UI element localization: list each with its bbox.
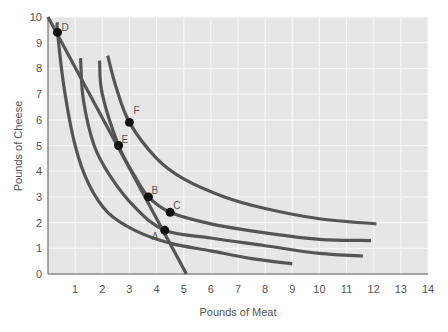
- x-tick-label: 2: [99, 283, 105, 295]
- point-label-a: A: [152, 231, 159, 242]
- y-axis-ticks: 012345678910: [30, 11, 42, 280]
- y-tick-label: 10: [30, 11, 42, 23]
- point-f: [125, 118, 134, 127]
- y-tick-label: 1: [36, 242, 42, 254]
- y-tick-label: 6: [36, 114, 42, 126]
- x-axis-ticks: 1234567891011121314: [72, 283, 434, 295]
- x-tick-label: 1: [72, 283, 78, 295]
- y-tick-label: 2: [36, 217, 42, 229]
- y-tick-label: 7: [36, 88, 42, 100]
- point-label-f: F: [133, 105, 139, 116]
- point-a: [160, 226, 169, 235]
- x-tick-label: 5: [181, 283, 187, 295]
- x-tick-label: 9: [289, 283, 295, 295]
- y-tick-label: 8: [36, 62, 42, 74]
- indifference-curve-chart: 1234567891011121314 012345678910 ABCDEF …: [0, 0, 448, 332]
- x-tick-label: 10: [313, 283, 325, 295]
- y-tick-label: 0: [36, 268, 42, 280]
- x-tick-label: 12: [368, 283, 380, 295]
- point-label-e: E: [122, 134, 129, 145]
- point-label-b: B: [151, 185, 158, 196]
- y-tick-label: 5: [36, 140, 42, 152]
- x-tick-label: 8: [262, 283, 268, 295]
- x-tick-label: 14: [422, 283, 434, 295]
- point-label-c: C: [173, 200, 180, 211]
- x-tick-label: 7: [235, 283, 241, 295]
- y-tick-label: 3: [36, 191, 42, 203]
- y-axis-label: Pounds of Cheese: [12, 101, 24, 192]
- x-axis-label: Pounds of Meat: [199, 306, 276, 318]
- point-label-d: D: [62, 22, 69, 33]
- x-tick-label: 3: [126, 283, 132, 295]
- x-tick-label: 13: [395, 283, 407, 295]
- y-tick-label: 9: [36, 37, 42, 49]
- y-tick-label: 4: [36, 165, 42, 177]
- x-tick-label: 4: [154, 283, 160, 295]
- x-tick-label: 11: [341, 283, 352, 295]
- x-tick-label: 6: [208, 283, 214, 295]
